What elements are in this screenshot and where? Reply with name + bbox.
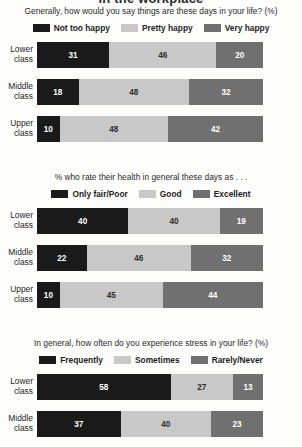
bar-segment: 10	[37, 282, 60, 308]
row-label-line2: class	[0, 221, 33, 231]
legend-swatch-icon	[139, 190, 156, 198]
legend-item: Not too happy	[33, 23, 110, 33]
chart-subtitle: Generally, how would you say things are …	[0, 6, 302, 17]
chart-subtitle: In general, how often do you experience …	[0, 338, 302, 349]
bar-segment: 18	[37, 79, 79, 105]
chart-row: Middleclass374023	[0, 411, 302, 437]
chart-row: Middleclass184832	[0, 79, 302, 105]
bar-segment: 40	[128, 208, 219, 234]
chart-row: Lowerclass404019	[0, 208, 302, 234]
row-label: Upperclass	[0, 119, 37, 138]
stacked-bar: 184832	[37, 79, 263, 105]
row-label-line2: class	[0, 424, 33, 434]
row-label-line2: class	[0, 129, 33, 139]
chart-legend: Only fair/PoorGoodExcellent	[0, 189, 302, 199]
bar-segment: 37	[37, 411, 121, 437]
legend-label: Pretty happy	[142, 23, 193, 33]
stacked-bar: 314620	[37, 42, 263, 68]
legend-swatch-icon	[51, 190, 68, 198]
bar-segment: 40	[37, 208, 128, 234]
chart-legend: FrequentlySometimesRarely/Never	[0, 355, 302, 365]
bar-segment: 20	[216, 42, 263, 68]
legend-item: Good	[139, 189, 182, 199]
legend-item: Frequently	[39, 355, 103, 365]
chart-rows: Lowerclass582713Middleclass374023	[0, 374, 302, 437]
figure-page: in the workplace Generally, how would yo…	[0, 0, 302, 447]
legend-swatch-icon	[191, 356, 208, 364]
row-label-line2: class	[0, 92, 33, 102]
row-label: Upperclass	[0, 285, 37, 304]
legend-item: Very happy	[204, 23, 270, 33]
bar-segment: 32	[189, 79, 263, 105]
legend-item: Sometimes	[114, 355, 180, 365]
stacked-bar: 224632	[37, 245, 263, 271]
legend-swatch-icon	[114, 356, 131, 364]
stacked-bar: 104544	[37, 282, 263, 308]
chart-rows: Lowerclass314620Middleclass184832Uppercl…	[0, 42, 302, 142]
bar-segment: 46	[87, 245, 191, 271]
chart-row: Lowerclass314620	[0, 42, 302, 68]
chart-legend: Not too happyPretty happyVery happy	[0, 23, 302, 33]
row-label: Lowerclass	[0, 211, 37, 230]
legend-swatch-icon	[121, 24, 138, 32]
stacked-bar: 104842	[37, 116, 263, 142]
legend-item: Pretty happy	[121, 23, 193, 33]
bar-segment: 32	[191, 245, 263, 271]
legend-label: Not too happy	[54, 23, 110, 33]
chart-panel-health: % who rate their health in general these…	[0, 172, 302, 308]
chart-panel-happiness: Generally, how would you say things are …	[0, 6, 302, 142]
row-label: Lowerclass	[0, 377, 37, 396]
legend-swatch-icon	[204, 24, 221, 32]
legend-swatch-icon	[39, 356, 56, 364]
stacked-bar: 582713	[37, 374, 263, 400]
row-label: Middleclass	[0, 248, 37, 267]
chart-row: Upperclass104842	[0, 116, 302, 142]
bar-segment: 44	[163, 282, 263, 308]
legend-swatch-icon	[193, 190, 210, 198]
row-label-line2: class	[0, 55, 33, 65]
legend-item: Rarely/Never	[191, 355, 263, 365]
legend-label: Sometimes	[135, 355, 180, 365]
bar-segment: 40	[121, 411, 211, 437]
legend-item: Only fair/Poor	[51, 189, 127, 199]
stacked-bar: 404019	[37, 208, 263, 234]
chart-subtitle: % who rate their health in general these…	[0, 172, 302, 183]
chart-rows: Lowerclass404019Middleclass224632Uppercl…	[0, 208, 302, 308]
row-label-line2: class	[0, 387, 33, 397]
bar-segment: 23	[211, 411, 263, 437]
legend-swatch-icon	[33, 24, 50, 32]
chart-panel-stress: In general, how often do you experience …	[0, 338, 302, 437]
chart-row: Lowerclass582713	[0, 374, 302, 400]
row-label: Middleclass	[0, 82, 37, 101]
chart-row: Upperclass104544	[0, 282, 302, 308]
legend-label: Excellent	[214, 189, 251, 199]
bar-segment: 22	[37, 245, 87, 271]
bar-segment: 42	[168, 116, 263, 142]
bar-segment: 45	[60, 282, 163, 308]
bar-segment: 13	[233, 374, 263, 400]
row-label: Lowerclass	[0, 45, 37, 64]
bar-segment: 10	[37, 116, 60, 142]
bar-segment: 48	[60, 116, 168, 142]
bar-segment: 19	[220, 208, 263, 234]
stacked-bar: 374023	[37, 411, 263, 437]
bar-segment: 48	[79, 79, 190, 105]
row-label-line2: class	[0, 258, 33, 268]
bar-segment: 58	[37, 374, 171, 400]
legend-label: Rarely/Never	[212, 355, 263, 365]
bar-segment: 31	[37, 42, 109, 68]
row-label-line2: class	[0, 295, 33, 305]
legend-label: Only fair/Poor	[72, 189, 127, 199]
bar-segment: 46	[109, 42, 216, 68]
row-label: Middleclass	[0, 414, 37, 433]
legend-label: Frequently	[60, 355, 103, 365]
chart-row: Middleclass224632	[0, 245, 302, 271]
bar-segment: 27	[171, 374, 233, 400]
legend-label: Good	[160, 189, 182, 199]
legend-label: Very happy	[225, 23, 270, 33]
legend-item: Excellent	[193, 189, 251, 199]
